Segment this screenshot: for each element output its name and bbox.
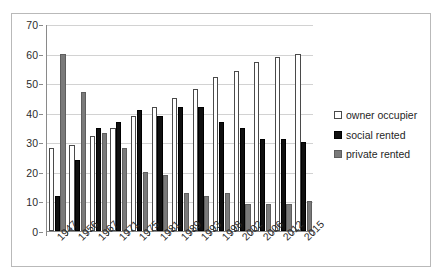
y-tick-mark xyxy=(39,232,43,233)
bar-owner-1981[interactable] xyxy=(152,107,157,231)
y-tick-mark xyxy=(39,114,43,115)
legend-label: social rented xyxy=(346,130,406,141)
bar-social-1989[interactable] xyxy=(178,107,183,231)
y-tick-label: 30 xyxy=(26,138,38,149)
y-tick-mark xyxy=(39,84,43,85)
y-tick-mark xyxy=(39,25,43,26)
bar-owner-2006[interactable] xyxy=(254,62,259,231)
y-tick-label: 10 xyxy=(26,197,38,208)
legend-item-private[interactable]: private rented xyxy=(334,149,430,160)
y-tick-label: 70 xyxy=(26,20,38,31)
bar-owner-1993[interactable] xyxy=(193,89,198,231)
bar-social-1981[interactable] xyxy=(157,116,162,231)
bar-social-1998[interactable] xyxy=(219,122,224,231)
bar-private-1967[interactable] xyxy=(102,133,107,231)
bar-social-1993[interactable] xyxy=(198,107,203,231)
x-axis: 1947195619671971197519811989199319982002… xyxy=(46,235,321,267)
y-tick-mark xyxy=(39,173,43,174)
legend-label: private rented xyxy=(346,149,410,160)
bar-group xyxy=(252,25,273,231)
bars-layer xyxy=(47,25,313,231)
bar-group xyxy=(232,25,253,231)
bar-private-1947[interactable] xyxy=(60,54,65,231)
y-tick-mark xyxy=(39,202,43,203)
bar-social-1975[interactable] xyxy=(137,110,142,231)
bar-private-1956[interactable] xyxy=(81,92,86,231)
bar-social-2012[interactable] xyxy=(281,139,286,231)
legend-swatch-private-icon xyxy=(334,150,342,158)
chart-container: 010203040506070 194719561967197119751981… xyxy=(11,13,431,267)
bar-private-1971[interactable] xyxy=(122,148,127,231)
y-tick-label: 60 xyxy=(26,49,38,60)
bar-owner-2015[interactable] xyxy=(295,54,300,231)
bar-group xyxy=(88,25,109,231)
legend-item-owner[interactable]: owner occupier xyxy=(334,110,430,121)
y-tick-label: 0 xyxy=(32,227,38,238)
legend: owner occupiersocial rentedprivate rente… xyxy=(334,110,430,169)
bar-group xyxy=(68,25,89,231)
bar-group xyxy=(109,25,130,231)
bar-group xyxy=(211,25,232,231)
bar-group xyxy=(47,25,68,231)
bar-group xyxy=(293,25,314,231)
bar-owner-1998[interactable] xyxy=(213,77,218,231)
legend-swatch-owner-icon xyxy=(334,111,342,119)
bar-social-1947[interactable] xyxy=(55,196,60,231)
bar-social-1971[interactable] xyxy=(116,122,121,231)
bar-group xyxy=(129,25,150,231)
bar-social-2015[interactable] xyxy=(301,142,306,231)
bar-owner-1989[interactable] xyxy=(172,98,177,231)
plot-area xyxy=(46,25,313,232)
bar-social-2002[interactable] xyxy=(240,128,245,232)
y-axis: 010203040506070 xyxy=(12,25,43,232)
y-tick-label: 20 xyxy=(26,168,38,179)
legend-label: owner occupier xyxy=(346,110,417,121)
bar-owner-2012[interactable] xyxy=(275,57,280,231)
bar-owner-2002[interactable] xyxy=(234,71,239,231)
y-tick-mark xyxy=(39,55,43,56)
y-tick-label: 50 xyxy=(26,79,38,90)
bar-owner-1975[interactable] xyxy=(131,116,136,231)
y-tick-label: 40 xyxy=(26,108,38,119)
bar-owner-1947[interactable] xyxy=(49,148,54,231)
bar-group xyxy=(150,25,171,231)
bar-group xyxy=(273,25,294,231)
bar-social-2006[interactable] xyxy=(260,139,265,231)
legend-swatch-social-icon xyxy=(334,131,342,139)
legend-item-social[interactable]: social rented xyxy=(334,130,430,141)
bar-group xyxy=(170,25,191,231)
bar-owner-1971[interactable] xyxy=(110,128,115,232)
bar-social-1967[interactable] xyxy=(96,128,101,232)
bar-social-1956[interactable] xyxy=(75,160,80,231)
bar-owner-1967[interactable] xyxy=(90,136,95,231)
y-tick-mark xyxy=(39,143,43,144)
bar-group xyxy=(191,25,212,231)
